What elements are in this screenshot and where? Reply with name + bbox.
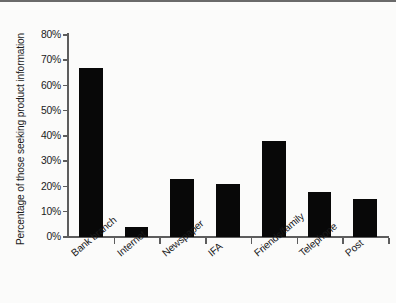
x-axis-tick-mark <box>114 238 116 244</box>
y-axis-tick: 50% <box>0 105 72 117</box>
y-axis-tick-mark <box>63 34 69 36</box>
y-axis-tick-mark <box>63 85 69 87</box>
y-axis-tick-mark <box>63 211 69 213</box>
x-axis-tick-label: IFA <box>206 240 224 258</box>
y-axis-tick-label: 40% <box>41 130 61 142</box>
x-axis-tick-mark <box>251 238 253 244</box>
bar <box>262 141 286 237</box>
y-axis-tick: 60% <box>0 80 72 92</box>
x-axis-tick-mark <box>205 238 207 244</box>
x-axis-tick-mark <box>159 238 161 244</box>
y-axis-tick: 80% <box>0 29 72 41</box>
x-axis-tick-mark <box>388 238 390 244</box>
y-axis-tick: 30% <box>0 155 72 167</box>
y-axis-tick-label: 60% <box>41 80 61 92</box>
y-axis-tick-label: 50% <box>41 105 61 117</box>
y-axis-tick-label: 70% <box>41 54 61 66</box>
bar <box>79 68 103 237</box>
y-axis-tick-label: 10% <box>41 206 61 218</box>
x-axis-tick-label: Post <box>343 237 365 258</box>
y-axis-tick-mark <box>63 135 69 137</box>
y-axis-tick: 40% <box>0 130 72 142</box>
y-axis-tick: 0% <box>0 231 72 243</box>
bar <box>353 199 377 237</box>
y-axis-tick-label: 20% <box>41 181 61 193</box>
y-axis-tick-mark <box>63 59 69 61</box>
y-axis-tick-mark <box>63 236 69 238</box>
x-axis-tick-mark <box>297 238 299 244</box>
y-axis-tick: 70% <box>0 54 72 66</box>
y-axis-tick: 20% <box>0 181 72 193</box>
y-axis-tick-mark <box>63 160 69 162</box>
y-axis-tick-mark <box>63 110 69 112</box>
bar <box>216 184 240 237</box>
y-axis-tick-label: 30% <box>41 155 61 167</box>
bar-chart-figure: Percentage of those seeking product info… <box>0 0 396 303</box>
y-axis-tick: 10% <box>0 206 72 218</box>
y-axis-tick-mark <box>63 186 69 188</box>
y-axis-tick-label: 0% <box>47 231 61 243</box>
y-axis-tick-label: 80% <box>41 29 61 41</box>
x-axis-tick-mark <box>342 238 344 244</box>
